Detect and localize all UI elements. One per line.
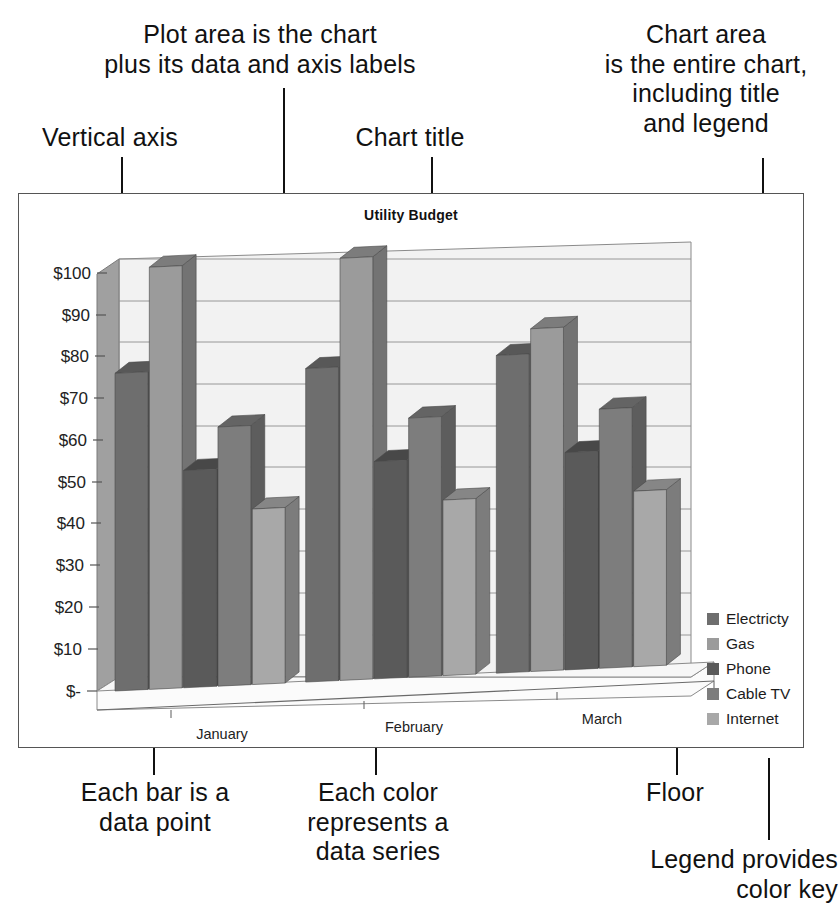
bar [149, 266, 182, 690]
legend-item[interactable]: Internet [707, 706, 840, 731]
y-axis-labels: $- $10 $20 $30 $40 $50 $60 $70 $80 $90 $… [53, 264, 91, 701]
chart-area: Utility Budget [18, 193, 804, 748]
legend-label: Gas [726, 635, 754, 653]
annotation-each-bar: Each bar is a data point [40, 778, 270, 837]
y-tick-label: $100 [53, 264, 91, 283]
legend-item[interactable]: Electricty [707, 606, 840, 631]
legend-swatch-icon [707, 688, 719, 700]
legend-item[interactable]: Cable TV [707, 681, 840, 706]
leader-legend [768, 758, 770, 840]
annotation-each-color: Each color represents a data series [278, 778, 478, 867]
x-tick-label: March [582, 711, 622, 727]
bar [252, 507, 285, 684]
y-tick-label: $70 [60, 389, 88, 408]
y-tick-label: $- [66, 682, 81, 701]
bar [340, 257, 373, 681]
legend-item[interactable]: Gas [707, 631, 840, 656]
annotation-vertical-axis: Vertical axis [10, 123, 210, 153]
y-tick-label: $40 [57, 514, 85, 533]
bar [443, 499, 476, 676]
legend-swatch-icon [707, 663, 719, 675]
legend-label: Phone [726, 660, 771, 678]
legend-label: Electricty [726, 610, 789, 628]
legend-label: Cable TV [726, 685, 790, 703]
bar [306, 367, 339, 682]
bar-side-face [285, 496, 299, 683]
y-tick-label: $10 [54, 640, 82, 659]
x-tick-label: January [196, 726, 248, 742]
bar [218, 425, 251, 686]
bar [184, 469, 217, 688]
y-tick-label: $30 [56, 556, 84, 575]
annotation-legend: Legend provides color key [580, 845, 838, 904]
y-tick-label: $90 [62, 306, 90, 325]
x-tick-label: February [385, 719, 444, 735]
bar-side-face [476, 488, 490, 675]
bar [531, 327, 564, 671]
x-axis-labels: January February March [196, 711, 622, 742]
legend-item[interactable]: Phone [707, 656, 840, 681]
y-tick-label: $20 [55, 598, 83, 617]
y-tick-label: $80 [61, 347, 89, 366]
annotation-floor: Floor [600, 778, 750, 808]
bar [409, 417, 442, 678]
legend-swatch-icon [707, 638, 719, 650]
chart-svg: $- $10 $20 $30 $40 $50 $60 $70 $80 $90 $… [19, 194, 805, 749]
bar-side-face [666, 479, 680, 666]
bar [496, 354, 529, 673]
plot-area: $- $10 $20 $30 $40 $50 $60 $70 $80 $90 $… [19, 194, 805, 749]
bar [599, 408, 632, 669]
legend-swatch-icon [707, 613, 719, 625]
legend-swatch-icon [707, 713, 719, 725]
bar [634, 490, 667, 667]
annotation-chart-title: Chart title [300, 123, 520, 153]
bar [565, 451, 598, 670]
bar [374, 460, 407, 679]
annotation-plot-area: Plot area is the chart plus its data and… [65, 20, 455, 79]
bar [115, 372, 148, 691]
y-tick-label: $50 [58, 473, 86, 492]
legend: Electricty Gas Phone Cable TV Internet [707, 606, 840, 731]
y-tick-label: $60 [59, 431, 87, 450]
legend-label: Internet [726, 710, 779, 728]
annotation-chart-area: Chart area is the entire chart, includin… [575, 20, 837, 138]
